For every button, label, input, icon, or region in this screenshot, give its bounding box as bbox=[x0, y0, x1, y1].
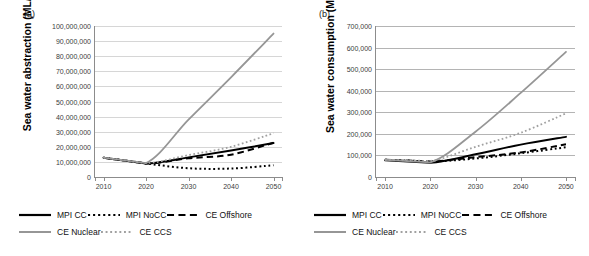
legend-label: MPI NoCC bbox=[421, 210, 462, 220]
legend-label: CE Offshore bbox=[500, 210, 547, 220]
x-axis-tick-mark bbox=[430, 177, 431, 181]
legend-label: CE CCS bbox=[139, 227, 171, 237]
legend-item-mpi-cc[interactable]: MPI CC bbox=[313, 210, 382, 220]
x-axis-tick-mark bbox=[282, 177, 283, 181]
legend-item-ce-offshore[interactable]: CE Offshore bbox=[461, 210, 547, 220]
legend-label: CE Nuclear bbox=[57, 227, 100, 237]
legend-swatch-icon bbox=[100, 227, 134, 237]
y-axis-tick-label: 50,000,000 bbox=[56, 98, 91, 105]
legend-swatch-icon bbox=[461, 210, 495, 220]
x-axis-tick-label: 2030 bbox=[468, 183, 484, 190]
y-axis-tick-label: 100,000,000 bbox=[52, 23, 91, 30]
y-axis-tick-label: 30,000,000 bbox=[56, 128, 91, 135]
x-axis-tick-mark bbox=[476, 177, 477, 181]
legend-swatch-icon bbox=[313, 227, 347, 237]
legend-a: MPI CCMPI NoCCCE OffshoreCE NuclearCE CC… bbox=[18, 206, 290, 240]
legend-item-ce-ccs[interactable]: CE CCS bbox=[395, 227, 466, 237]
series-line-mpi-nocc bbox=[104, 158, 274, 169]
series-line-ce-nuclear bbox=[104, 34, 274, 164]
legend-row: CE NuclearCE CCS bbox=[313, 223, 585, 240]
legend-label: CE CCS bbox=[434, 227, 466, 237]
y-axis-tick-label: 60,000,000 bbox=[56, 83, 91, 90]
series-line-ce-nuclear bbox=[385, 52, 566, 162]
legend-label: MPI CC bbox=[57, 210, 87, 220]
legend-item-ce-nuclear[interactable]: CE Nuclear bbox=[313, 227, 395, 237]
legend-item-ce-offshore[interactable]: CE Offshore bbox=[166, 210, 252, 220]
x-axis-tick-label: 2020 bbox=[138, 183, 154, 190]
y-axis-tick-label: 100,000 bbox=[347, 152, 372, 159]
legend-row: MPI CCMPI NoCCCE Offshore bbox=[313, 206, 585, 223]
plot-area-b: 0100,000200,000300,000400,000500,000600,… bbox=[375, 26, 575, 178]
x-axis-tick-mark bbox=[274, 177, 275, 181]
y-axis-tick-label: 10,000,000 bbox=[56, 158, 91, 165]
y-axis-label-a: Sea water abstraction (ML/yr) bbox=[21, 0, 33, 133]
y-axis-tick-label: 40,000,000 bbox=[56, 113, 91, 120]
y-axis-tick-label: 700,000 bbox=[347, 23, 372, 30]
legend-label: MPI CC bbox=[352, 210, 382, 220]
x-axis-tick-mark bbox=[104, 177, 105, 181]
x-axis-tick-mark bbox=[231, 177, 232, 181]
y-axis-tick-label: 0 bbox=[368, 174, 372, 181]
legend-swatch-icon bbox=[313, 210, 347, 220]
x-axis-tick-mark bbox=[95, 177, 96, 181]
y-axis-tick-label: 70,000,000 bbox=[56, 68, 91, 75]
legend-item-ce-nuclear[interactable]: CE Nuclear bbox=[18, 227, 100, 237]
legend-item-mpi-cc[interactable]: MPI CC bbox=[18, 210, 87, 220]
legend-item-mpi-nocc[interactable]: MPI NoCC bbox=[87, 210, 167, 220]
x-axis-tick-mark bbox=[521, 177, 522, 181]
x-axis-tick-label: 2040 bbox=[223, 183, 239, 190]
legend-row: CE NuclearCE CCS bbox=[18, 223, 290, 240]
x-axis-tick-label: 2030 bbox=[181, 183, 197, 190]
y-axis-tick-label: 0 bbox=[87, 174, 91, 181]
legend-label: CE Offshore bbox=[205, 210, 252, 220]
legend-item-mpi-nocc[interactable]: MPI NoCC bbox=[382, 210, 462, 220]
x-axis-tick-label: 2050 bbox=[266, 183, 282, 190]
y-axis-tick-label: 80,000,000 bbox=[56, 53, 91, 60]
series-layer bbox=[376, 26, 575, 177]
plot-wrapper-a: 010,000,00020,000,00030,000,00040,000,00… bbox=[94, 26, 282, 178]
legend-swatch-icon bbox=[87, 210, 121, 220]
legend-swatch-icon bbox=[18, 227, 52, 237]
series-line-mpi-cc bbox=[385, 137, 566, 163]
x-axis-tick-label: 2010 bbox=[377, 183, 393, 190]
y-axis-tick-label: 400,000 bbox=[347, 87, 372, 94]
legend-row: MPI CCMPI NoCCCE Offshore bbox=[18, 206, 290, 223]
legend-b: MPI CCMPI NoCCCE OffshoreCE NuclearCE CC… bbox=[313, 206, 585, 240]
legend-item-ce-ccs[interactable]: CE CCS bbox=[100, 227, 171, 237]
x-axis-tick-mark bbox=[376, 177, 377, 181]
x-axis-tick-label: 2010 bbox=[96, 183, 112, 190]
series-layer bbox=[95, 26, 282, 177]
x-axis-tick-label: 2020 bbox=[422, 183, 438, 190]
legend-swatch-icon bbox=[18, 210, 52, 220]
y-axis-tick-label: 600,000 bbox=[347, 44, 372, 51]
plot-wrapper-b: 0100,000200,000300,000400,000500,000600,… bbox=[375, 26, 575, 178]
legend-label: MPI NoCC bbox=[126, 210, 167, 220]
x-axis-tick-mark bbox=[575, 177, 576, 181]
legend-swatch-icon bbox=[166, 210, 200, 220]
y-axis-label-b: Sea water consumption (ML/yr) bbox=[324, 0, 336, 133]
x-axis-tick-mark bbox=[189, 177, 190, 181]
legend-swatch-icon bbox=[395, 227, 429, 237]
x-axis-tick-label: 2040 bbox=[513, 183, 529, 190]
y-axis-tick-label: 90,000,000 bbox=[56, 38, 91, 45]
y-axis-tick-label: 500,000 bbox=[347, 66, 372, 73]
plot-area-a: 010,000,00020,000,00030,000,00040,000,00… bbox=[94, 26, 282, 178]
legend-swatch-icon bbox=[382, 210, 416, 220]
figure-container: (a) Sea water abstraction (ML/yr) 010,00… bbox=[0, 0, 589, 256]
x-axis-tick-mark bbox=[146, 177, 147, 181]
x-axis-tick-mark bbox=[566, 177, 567, 181]
y-axis-tick-label: 200,000 bbox=[347, 130, 372, 137]
x-axis-tick-mark bbox=[385, 177, 386, 181]
x-axis-tick-label: 2050 bbox=[558, 183, 574, 190]
legend-label: CE Nuclear bbox=[352, 227, 395, 237]
y-axis-tick-label: 20,000,000 bbox=[56, 143, 91, 150]
y-axis-tick-label: 300,000 bbox=[347, 109, 372, 116]
